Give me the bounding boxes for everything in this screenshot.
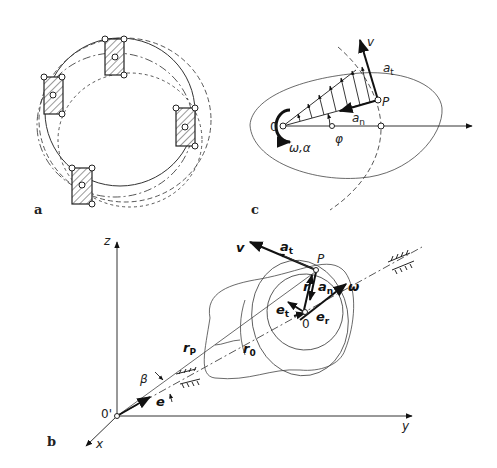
pivot-o-c xyxy=(280,123,286,129)
label-origin: 0' xyxy=(101,407,112,421)
axis-intersection-node xyxy=(378,123,384,129)
label-z: z xyxy=(103,234,111,248)
corner-node xyxy=(41,74,47,80)
center-node xyxy=(79,182,85,188)
beta-angle-mark xyxy=(170,394,172,402)
label-r0: r0 xyxy=(243,341,256,358)
corner-node xyxy=(192,105,198,111)
center-node xyxy=(50,92,56,98)
label-e: e xyxy=(156,394,165,409)
corner-node xyxy=(69,165,75,171)
point-p-b xyxy=(314,268,319,273)
beta-angle-mark xyxy=(155,372,163,380)
label-beta: β xyxy=(139,372,148,386)
rotation-axis xyxy=(117,247,422,416)
origin-o-prime xyxy=(115,414,120,419)
panel-b: z y x 0' v at P r an ω et er 0 r0 rP β e… xyxy=(47,234,422,451)
panel-label-a: a xyxy=(34,202,43,217)
bearing-far xyxy=(388,250,414,274)
label-at-b: at xyxy=(280,239,294,256)
corner-node xyxy=(121,36,127,42)
label-p-c: P xyxy=(382,95,390,109)
label-er: er xyxy=(316,309,330,326)
path-of-p xyxy=(330,47,381,210)
label-x: x xyxy=(95,437,104,451)
angle-node xyxy=(330,124,335,129)
label-rp: rP xyxy=(183,340,196,357)
corner-node xyxy=(89,165,95,171)
corner-node xyxy=(59,74,65,80)
point-p-c xyxy=(375,97,381,103)
label-et: et xyxy=(276,302,290,319)
panel-label-c: c xyxy=(251,202,259,217)
label-omega-alpha: ω,α xyxy=(289,141,311,155)
panel-a: a xyxy=(34,36,211,217)
label-an-c: an xyxy=(352,111,365,127)
corner-node xyxy=(59,111,65,117)
unit-vector-e xyxy=(117,397,150,416)
corner-node xyxy=(89,201,95,207)
label-o-c: 0 xyxy=(270,120,278,134)
label-v-c: v xyxy=(367,35,375,49)
corner-node xyxy=(192,143,198,149)
center-o-b xyxy=(303,310,308,315)
corner-node xyxy=(121,72,127,78)
label-o-b: 0 xyxy=(302,317,310,331)
corner-node xyxy=(102,36,108,42)
unit-vector-et xyxy=(288,302,304,312)
label-an-b: an xyxy=(318,279,333,296)
label-p-b: P xyxy=(317,252,325,266)
label-phi: φ xyxy=(335,132,343,146)
panel-label-b: b xyxy=(47,434,56,449)
section-line xyxy=(215,340,240,345)
panel-c: v at P an 0 ω,α φ c xyxy=(250,35,472,217)
body-outline-b xyxy=(204,264,353,378)
corner-node xyxy=(173,105,179,111)
position-vector-rp xyxy=(117,272,315,416)
center-node xyxy=(112,54,118,60)
kinematics-figure: a v at xyxy=(0,0,497,468)
label-v-b: v xyxy=(236,240,245,255)
body-cross-section xyxy=(243,253,358,384)
label-omega-b: ω xyxy=(348,279,359,294)
center-node xyxy=(182,124,188,130)
label-at-c: at xyxy=(383,61,394,77)
label-y: y xyxy=(401,419,410,433)
